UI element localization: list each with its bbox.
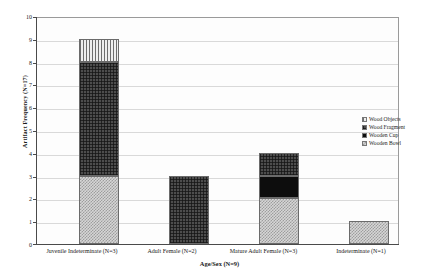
segment-wooden-cup <box>259 176 299 199</box>
segment-wooden-bowl <box>349 221 389 244</box>
legend-label-wood-fragment: Wood Fragment <box>369 123 405 131</box>
y-axis-title: Artifact Frequency (N=17) <box>21 42 28 182</box>
legend-label-wood-objects: Wood Objects <box>369 115 401 123</box>
legend-label-wooden-cup: Wooden Cup <box>369 131 398 139</box>
segment-wooden-bowl <box>259 198 299 244</box>
segment-wooden-bowl <box>79 176 119 244</box>
x-axis-line <box>36 244 399 245</box>
bar-juvenile-indeterminate <box>79 39 119 244</box>
legend-swatch-wood-fragment-icon <box>362 125 367 130</box>
legend-swatch-wooden-cup-icon <box>362 133 367 138</box>
y-tick-label-1: 1 <box>18 219 32 225</box>
legend-swatch-wooden-bowl-icon <box>362 141 367 146</box>
legend: Wood Objects Wood Fragment Wooden Cup Wo… <box>362 115 405 147</box>
legend-label-wooden-bowl: Wooden Bowl <box>369 139 401 147</box>
y-tick-label-10: 10 <box>18 14 32 20</box>
x-tick-label-indeterminate: Indeterminate (N=1) <box>300 248 422 255</box>
stacked-bar-chart: 10 9 8 7 6 5 4 3 2 1 0 Artifact Frequenc… <box>0 0 439 278</box>
y-tick-label-2: 2 <box>18 196 32 202</box>
legend-item-wooden-bowl: Wooden Bowl <box>362 139 405 147</box>
segment-wood-fragment <box>259 153 299 176</box>
segment-wood-fragment <box>79 62 119 176</box>
bar-indeterminate <box>349 221 389 244</box>
legend-item-wood-objects: Wood Objects <box>362 115 405 123</box>
legend-swatch-wood-objects-icon <box>362 117 367 122</box>
bar-mature-adult-female <box>259 153 299 244</box>
segment-wood-objects <box>79 39 119 62</box>
y-axis-line <box>36 17 37 245</box>
x-axis-title: Age/Sex (N=9) <box>0 260 439 267</box>
bar-adult-female <box>169 176 209 244</box>
plot-area <box>36 17 399 245</box>
segment-wood-fragment <box>169 176 209 244</box>
legend-item-wood-fragment: Wood Fragment <box>362 123 405 131</box>
legend-item-wooden-cup: Wooden Cup <box>362 131 405 139</box>
